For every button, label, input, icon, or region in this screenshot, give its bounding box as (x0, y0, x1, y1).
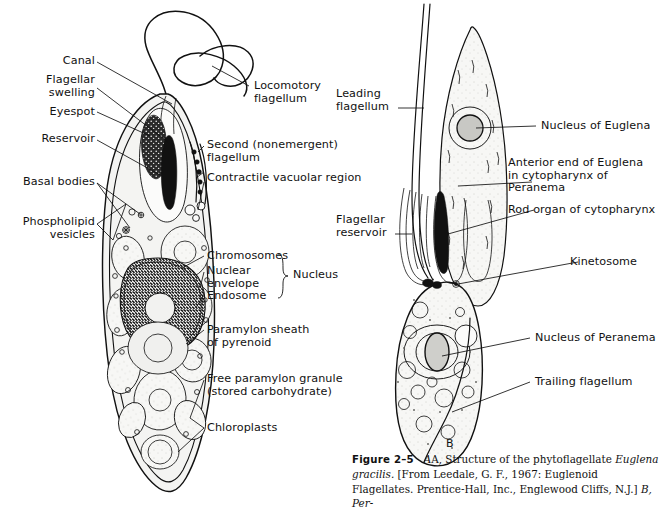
label-free-paramylon-granule: Free paramylon granule (stored carbohydr… (207, 373, 377, 398)
label-eyespot: Eyespot (0, 106, 95, 119)
label-anterior-end-of-euglena: Anterior end of Euglena in cytopharynx o… (508, 157, 660, 195)
label-nucleus: Nucleus (293, 269, 373, 282)
label-phospholipid-vesicles: Phospholipid vesicles (0, 216, 95, 241)
panel-letter-b: B (446, 437, 454, 450)
label-rod-organ-of-cytopharynx: Rod organ of cytopharynx (508, 204, 662, 217)
label-nuclear-envelope: Nuclear envelope (207, 265, 287, 290)
label-contractile-vacuolar-region: Contractile vacuolar region (207, 172, 387, 185)
label-paramylon-sheath: Paramylon sheath of pyrenoid (207, 324, 347, 349)
label-chloroplasts: Chloroplasts (207, 422, 327, 435)
caption-label: Figure 2–5 (352, 454, 414, 465)
label-nucleus-of-peranema: Nucleus of Peranema (535, 332, 662, 345)
label-flagellar-reservoir: Flagellar reservoir (336, 214, 426, 239)
label-kinetosome: Kinetosome (570, 256, 662, 269)
label-nucleus-of-euglena: Nucleus of Euglena (541, 120, 662, 133)
figure-caption: Figure 2–5 AA, Structure of the phytofla… (352, 452, 660, 510)
label-basal-bodies: Basal bodies (0, 176, 95, 189)
label-flagellar-swelling: Flagellar swelling (0, 74, 95, 99)
caption-text-2: [From Leedale, G. F., 1967: Euglenoid Fl… (352, 468, 641, 494)
label-endosome: Endosome (207, 290, 307, 303)
label-chromosomes: Chromosomes (207, 250, 327, 263)
label-second-flagellum: Second (nonemergent) flagellum (207, 139, 367, 164)
label-reservoir: Reservoir (0, 133, 95, 146)
peranema-nucleus (425, 333, 449, 371)
label-canal: Canal (0, 55, 95, 68)
label-trailing-flagellum: Trailing flagellum (535, 376, 662, 389)
label-leading-flagellum: Leading flagellum (336, 88, 426, 113)
caption-text-1: A, Structure of the phytoflagellate (431, 453, 615, 465)
